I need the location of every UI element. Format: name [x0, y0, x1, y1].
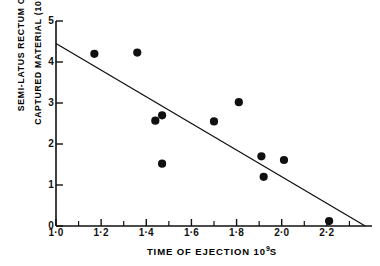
data-point [151, 117, 159, 125]
data-point [280, 156, 288, 164]
data-point-series [90, 48, 333, 225]
y-axis-title: SEMI-LATUS RECTUM OF CAPTURED MATERIAL (… [15, 0, 45, 144]
x-axis-title-unit: S [270, 246, 277, 257]
data-point [325, 217, 333, 225]
x-tick-label: 2·2 [319, 228, 334, 238]
x-tick-label: 1·8 [229, 228, 244, 238]
y-tick-label: 0 [48, 221, 54, 231]
scatter-plot-figure: 1·01·21·41·61·82·02·2 012345 TIME OF EJE… [0, 0, 380, 266]
x-axis-ticks [56, 219, 349, 226]
y-axis-title-line2: CAPTURED MATERIAL (10 [33, 1, 43, 125]
data-point [158, 160, 166, 168]
y-tick-label: 3 [48, 98, 54, 108]
x-tick-label: 1·6 [184, 228, 199, 238]
x-tick-label: 1·2 [94, 228, 109, 238]
y-tick-label: 1 [48, 180, 54, 190]
x-axis-title: TIME OF EJECTION 109S [0, 245, 380, 257]
y-axis-title-line2-wrap: CAPTURED MATERIAL (10-4cm) [28, 0, 45, 144]
y-axis-ticks [56, 21, 63, 226]
x-axis-title-text: TIME OF EJECTION 10 [147, 246, 266, 257]
data-point [257, 152, 265, 160]
regression-line [56, 44, 365, 226]
y-tick-label: 4 [48, 57, 54, 67]
data-point [235, 98, 243, 106]
data-point [210, 117, 218, 125]
fit-line [56, 44, 365, 226]
x-tick-label: 2·0 [274, 228, 289, 238]
y-tick-label: 5 [48, 16, 54, 26]
data-point [90, 50, 98, 58]
x-tick-label: 1·4 [139, 228, 154, 238]
y-axis-title-line1: SEMI-LATUS RECTUM OF [15, 0, 28, 144]
y-tick-label: 2 [48, 139, 54, 149]
y-axis-title-exponent: -4 [31, 0, 38, 1]
data-point [158, 111, 166, 119]
data-point [133, 48, 141, 56]
data-point [260, 173, 268, 181]
